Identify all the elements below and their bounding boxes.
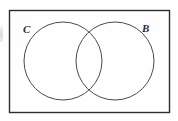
circle-c (24, 22, 102, 100)
circle-c-label: C (23, 24, 30, 35)
venn-diagram-figure: C B (0, 0, 178, 121)
venn-diagram-canvas (0, 0, 178, 121)
scan-edge-artifact (0, 26, 3, 42)
circle-b-label: B (142, 23, 149, 34)
